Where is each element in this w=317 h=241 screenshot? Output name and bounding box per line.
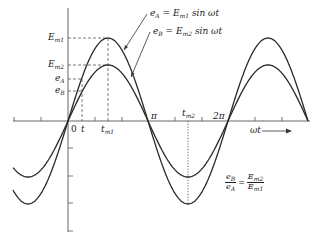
- label-tm2: tm2: [182, 109, 195, 119]
- ratio-left-den-sub: A: [231, 185, 235, 192]
- eqA-rhs-tail: sin ωt: [189, 8, 219, 18]
- equation-leaders: [124, 14, 150, 77]
- label-t: t: [81, 125, 85, 134]
- label-tm1: tm1: [101, 125, 114, 135]
- eqB-rhs-tail: sin ωt: [192, 26, 222, 36]
- label-omega-t: ωt: [250, 126, 261, 135]
- eqA-equals: =: [160, 8, 173, 18]
- label-tm1-sub: m1: [105, 128, 115, 135]
- label-zero: 0: [71, 125, 77, 134]
- label-Em2: Em2: [48, 60, 64, 70]
- label-tm2-sub: m2: [186, 112, 196, 119]
- ratio-right-den-sub: m1: [254, 185, 264, 192]
- ratio-right-fraction: Em2 Em1: [247, 173, 264, 193]
- label-Em1: Em1: [48, 33, 64, 43]
- ratio-left-den: eA: [225, 183, 236, 192]
- sinusoid-diagram: Em1 Em2 eA eB 0 t tm1 π tm2 2π ωt eA = E…: [0, 0, 317, 241]
- label-Em1-sub: m1: [55, 36, 65, 43]
- label-pi: π: [151, 112, 157, 121]
- ratio-equals: =: [238, 178, 245, 187]
- label-Em2-sub: m2: [55, 63, 65, 70]
- eqB-equals: =: [163, 26, 176, 36]
- x-axis-arrow-icon: [262, 129, 292, 134]
- equation-eA: eA = Em1 sin ωt: [150, 9, 219, 19]
- eqB-rhs: E: [176, 26, 183, 36]
- eqB-rhs-sub: m2: [183, 30, 193, 37]
- label-2pi: 2π: [213, 112, 225, 121]
- ratio-left-num-sub: B: [231, 175, 235, 182]
- y-axis-ticks: [68, 148, 73, 231]
- label-eA: eA: [55, 74, 65, 84]
- eqA-rhs-sub: m1: [180, 12, 190, 19]
- ratio-right-den: Em1: [247, 183, 264, 192]
- label-eA-sub: A: [60, 77, 64, 84]
- equation-eB: eB = Em2 sin ωt: [153, 27, 222, 37]
- ratio-equation: eB eA = Em2 Em1: [225, 173, 264, 193]
- leader-arrow-a-icon: [124, 45, 128, 50]
- ratio-right-num-sub: m2: [254, 175, 264, 182]
- label-eB-sub: B: [60, 89, 64, 96]
- label-eB: eB: [55, 86, 65, 96]
- ratio-left-fraction: eB eA: [225, 173, 236, 193]
- label-Em2-main: E: [48, 59, 55, 69]
- eqA-rhs: E: [173, 8, 180, 18]
- label-Em1-main: E: [48, 32, 55, 42]
